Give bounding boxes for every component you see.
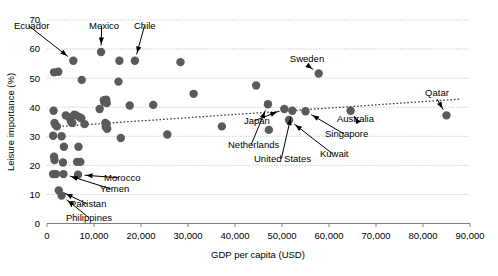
data-point xyxy=(49,107,57,115)
y-tick-label-50: 50 xyxy=(29,73,40,84)
data-point xyxy=(59,170,67,178)
annotation-label-netherlands: Netherlands xyxy=(228,139,279,150)
data-point xyxy=(176,58,184,66)
annotation-label-mexico: Mexico xyxy=(89,20,119,31)
x-axis-title: GDP per capita (USD) xyxy=(211,249,305,260)
y-tick-label-20: 20 xyxy=(29,160,40,171)
x-tick-label-50000: 50,000 xyxy=(267,230,296,241)
data-point xyxy=(131,57,139,65)
scatter-chart-figure: 010203040506070 010,00020,00030,00040,00… xyxy=(0,0,498,276)
annotation-label-yemen: Yemen xyxy=(100,183,129,194)
data-point xyxy=(53,122,61,130)
data-point xyxy=(288,107,296,115)
gridlines xyxy=(47,20,470,194)
x-tick-label-80000: 80,000 xyxy=(408,230,437,241)
annotation-label-united-states: United States xyxy=(254,153,311,164)
annotation-arrowhead xyxy=(60,50,67,56)
annotation-label-chile: Chile xyxy=(134,20,156,31)
annotation-arrowhead xyxy=(71,176,78,181)
data-point xyxy=(265,126,273,134)
annotation-label-australia: Australia xyxy=(337,113,375,124)
x-tick-label-40000: 40,000 xyxy=(220,230,249,241)
annotation-arrowhead xyxy=(99,37,104,44)
gdp-leisure-scatter-plot: 010203040506070 010,00020,00030,00040,00… xyxy=(0,0,498,276)
x-axis-tick-labels: 010,00020,00030,00040,00050,00060,00070,… xyxy=(44,230,484,241)
y-axis-title: Leisure importance (%) xyxy=(5,73,16,171)
data-point xyxy=(74,143,82,151)
annotation-arrowhead xyxy=(270,112,277,117)
annotation-label-sweden: Sweden xyxy=(290,53,324,64)
data-point xyxy=(80,120,88,128)
data-point xyxy=(57,132,65,140)
annotation-label-morocco: Morocco xyxy=(104,172,140,183)
x-tick-label-10000: 10,000 xyxy=(79,230,108,241)
data-point xyxy=(97,48,105,56)
data-point xyxy=(103,125,111,133)
data-point xyxy=(149,101,157,109)
annotation-label-ecuador: Ecuador xyxy=(14,20,49,31)
y-tick-label-60: 60 xyxy=(29,43,40,54)
data-point xyxy=(280,105,288,113)
data-point xyxy=(50,156,58,164)
y-tick-label-0: 0 xyxy=(35,218,40,229)
data-point xyxy=(264,100,272,108)
data-point xyxy=(301,107,309,115)
data-point xyxy=(115,57,123,65)
y-tick-label-10: 10 xyxy=(29,189,40,200)
annotation-leaders xyxy=(29,26,444,218)
data-point xyxy=(163,130,171,138)
data-point xyxy=(314,69,322,77)
x-tick-label-60000: 60,000 xyxy=(314,230,343,241)
data-point xyxy=(252,81,260,89)
annotation-label-singapore: Singapore xyxy=(325,128,368,139)
data-point xyxy=(68,119,76,127)
y-tick-label-30: 30 xyxy=(29,131,40,142)
data-point xyxy=(102,95,110,103)
annotation-arrowhead xyxy=(295,125,302,131)
data-point xyxy=(95,105,103,113)
annotation-arrowhead xyxy=(136,46,141,53)
annotation-label-pakistan: Pakistan xyxy=(70,198,106,209)
x-axis-ticks xyxy=(47,224,470,228)
y-axis-tick-labels: 010203040506070 xyxy=(29,14,40,229)
annotation-label-japan: Japan xyxy=(244,115,270,126)
data-point xyxy=(117,134,125,142)
annotation-arrowhead xyxy=(312,115,319,121)
data-point xyxy=(114,77,122,85)
data-point xyxy=(78,76,86,84)
x-tick-label-30000: 30,000 xyxy=(173,230,202,241)
data-point xyxy=(60,143,68,151)
annotation-label-philippines: Philippines xyxy=(66,212,112,223)
data-point xyxy=(218,122,226,130)
data-point xyxy=(76,158,84,166)
data-point xyxy=(442,111,450,119)
x-tick-label-70000: 70,000 xyxy=(361,230,390,241)
data-point xyxy=(57,191,65,199)
data-point xyxy=(54,68,62,76)
annotation-label-qatar: Qatar xyxy=(425,87,449,98)
data-point xyxy=(189,90,197,98)
data-point xyxy=(69,57,77,65)
data-point xyxy=(49,132,57,140)
x-tick-label-20000: 20,000 xyxy=(126,230,155,241)
data-point xyxy=(59,158,67,166)
x-tick-label-0: 0 xyxy=(44,230,49,241)
y-tick-label-40: 40 xyxy=(29,102,40,113)
x-tick-label-90000: 90,000 xyxy=(455,230,484,241)
data-point xyxy=(52,170,60,178)
annotation-label-kuwait: Kuwait xyxy=(320,148,349,159)
data-point xyxy=(126,101,134,109)
